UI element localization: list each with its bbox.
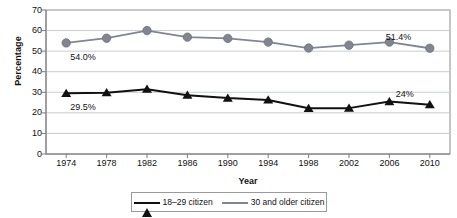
data-label: 51.4% <box>386 32 412 42</box>
data-point-marker <box>426 44 434 52</box>
data-point-marker <box>183 33 191 41</box>
data-label: 54.0% <box>70 52 96 62</box>
y-tick-label: 20 <box>14 108 42 117</box>
legend-label: 18–29 citizen <box>163 197 213 207</box>
circle-marker-icon <box>222 197 248 208</box>
x-tick-label: 1994 <box>246 158 290 168</box>
data-point-marker <box>304 44 312 52</box>
data-label: 29.5% <box>70 102 96 112</box>
data-point-marker <box>143 26 151 34</box>
chart-legend: 18–29 citizen 30 and older citizen <box>131 192 327 212</box>
x-tick-label: 2002 <box>327 158 371 168</box>
data-point-marker <box>345 41 353 49</box>
y-tick-label: 70 <box>14 6 42 15</box>
y-tick-label: 50 <box>14 47 42 56</box>
y-tick-label: 40 <box>14 67 42 76</box>
x-tick-label: 2006 <box>367 158 411 168</box>
x-tick-label: 1998 <box>287 158 331 168</box>
x-tick-label: 1982 <box>125 158 169 168</box>
x-tick-label: 2010 <box>408 158 452 168</box>
x-axis-title: Year <box>46 176 450 186</box>
y-tick-label: 30 <box>14 88 42 97</box>
data-point-marker <box>102 34 110 42</box>
y-tick-label: 0 <box>14 150 42 159</box>
y-tick-label: 60 <box>14 26 42 35</box>
x-tick-label: 1978 <box>85 158 129 168</box>
data-point-marker <box>264 38 272 46</box>
legend-item-18-29[interactable]: 18–29 citizen <box>134 197 213 208</box>
chart-figure: Percentage Year 010203040506070 19741978… <box>0 0 457 218</box>
data-label: 24% <box>396 89 414 99</box>
chart-title <box>0 0 457 2</box>
y-tick-label: 10 <box>14 129 42 138</box>
y-axis-tick-labels: 010203040506070 <box>10 0 42 218</box>
triangle-marker-icon <box>134 197 160 208</box>
legend-item-30-and-older[interactable]: 30 and older citizen <box>222 197 325 208</box>
x-tick-label: 1986 <box>165 158 209 168</box>
x-tick-label: 1974 <box>44 158 88 168</box>
data-point-marker <box>224 34 232 42</box>
data-point-marker <box>62 39 70 47</box>
x-tick-label: 1990 <box>206 158 250 168</box>
legend-label: 30 and older citizen <box>251 197 325 207</box>
